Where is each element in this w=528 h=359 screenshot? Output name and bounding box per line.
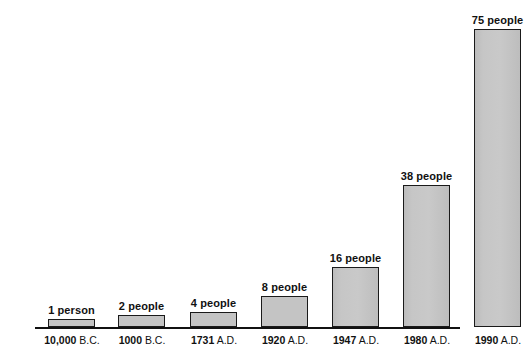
x-axis-tick-labels: 10,000 B.C. 1000 B.C. 1731 A.D. 1920 A.D… — [0, 333, 478, 351]
tick-label-era: A.D. — [427, 334, 450, 346]
tick-label-1947-ad: 1947 A.D. — [322, 333, 390, 347]
tick-label-year: 1000 — [119, 334, 142, 346]
bar-rect — [403, 185, 450, 327]
tick-label-era: B.C. — [142, 334, 165, 346]
bar-value-label: 75 people — [472, 14, 524, 27]
bar-rect — [48, 319, 95, 327]
bar-group-10000-bc: 1 person — [48, 304, 95, 327]
tick-label-year: 1947 — [333, 334, 356, 346]
tick-label-year: 1731 — [191, 334, 214, 346]
tick-label-year: 1920 — [262, 334, 285, 346]
tick-label-1731-ad: 1731 A.D. — [180, 333, 248, 347]
bar-group-1980-ad: 38 people — [403, 170, 450, 327]
bar-value-label: 38 people — [401, 170, 453, 183]
tick-label-1980-ad: 1980 A.D. — [393, 333, 461, 347]
tick-label-era: A.D. — [498, 334, 521, 346]
tick-label-era: A.D. — [356, 334, 379, 346]
bar-value-label: 2 people — [119, 300, 164, 313]
tick-label-year: 1990 — [475, 334, 498, 346]
bar-rect — [118, 315, 165, 327]
tick-label-year: 1980 — [404, 334, 427, 346]
tick-label-era: B.C. — [76, 334, 99, 346]
bar-value-label: 8 people — [262, 281, 307, 294]
tick-label-1000-bc: 1000 B.C. — [108, 333, 176, 347]
bar-rect — [190, 312, 237, 327]
tick-label-10000-bc: 10,000 B.C. — [36, 333, 108, 347]
bar-rect — [261, 296, 308, 327]
bar-value-label: 16 people — [330, 252, 382, 265]
bar-value-label: 1 person — [48, 304, 95, 317]
x-axis-line — [35, 327, 460, 329]
tick-label-era: A.D. — [285, 334, 308, 346]
bar-rect — [474, 29, 521, 327]
bar-group-1947-ad: 16 people — [332, 252, 379, 327]
tick-label-1920-ad: 1920 A.D. — [251, 333, 319, 347]
tick-label-era: A.D. — [214, 334, 237, 346]
tick-label-1990-ad: 1990 A.D. — [464, 333, 528, 347]
bar-group-1990-ad: 75 people — [474, 14, 521, 327]
bar-group-1731-ad: 4 people — [190, 297, 237, 327]
bar-group-1000-bc: 2 people — [118, 300, 165, 327]
bar-value-label: 4 people — [191, 297, 236, 310]
bar-rect — [332, 267, 379, 327]
bar-group-1920-ad: 8 people — [261, 281, 308, 327]
tick-label-year: 10,000 — [44, 334, 76, 346]
